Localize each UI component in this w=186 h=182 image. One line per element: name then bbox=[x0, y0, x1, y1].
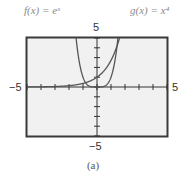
graph-plot bbox=[0, 0, 186, 182]
figure-caption: (a) bbox=[0, 159, 186, 171]
